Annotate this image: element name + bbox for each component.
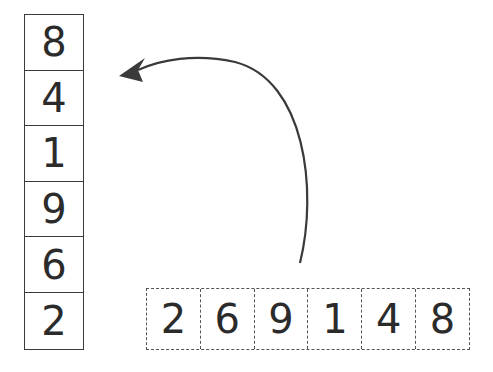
sequence-row: 2 6 9 1 4 8 bbox=[146, 288, 470, 350]
sequence-cell: 6 bbox=[201, 289, 255, 349]
sequence-cell: 2 bbox=[147, 289, 201, 349]
sequence-cell: 8 bbox=[416, 289, 469, 349]
sequence-cell: 9 bbox=[255, 289, 309, 349]
sequence-cell: 4 bbox=[362, 289, 416, 349]
sequence-cell: 1 bbox=[308, 289, 362, 349]
